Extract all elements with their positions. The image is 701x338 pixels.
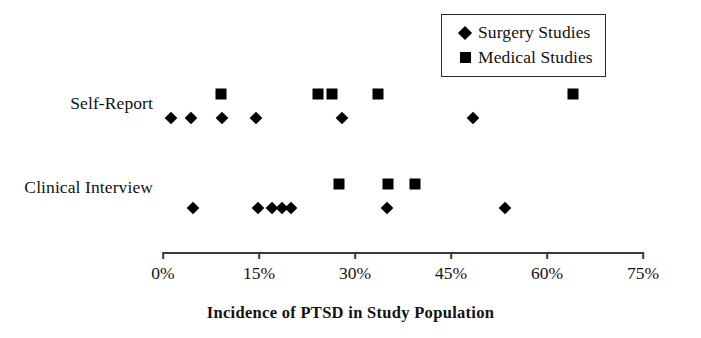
x-axis-tick	[162, 252, 164, 259]
x-axis-tick-label: 60%	[531, 263, 563, 284]
data-point	[468, 114, 477, 123]
diamond-marker-icon	[187, 202, 200, 215]
square-marker-icon	[452, 52, 478, 63]
diamond-marker-icon	[336, 112, 349, 125]
legend-entry-surgery-studies: Surgery Studies	[452, 20, 593, 45]
square-marker-icon	[334, 179, 345, 190]
x-axis-tick	[258, 252, 260, 259]
ptsd-incidence-chart: Surgery Studies Medical Studies Self-Rep…	[0, 0, 701, 338]
category-label-self-report: Self-Report	[0, 93, 153, 114]
x-axis-tick	[450, 252, 452, 259]
data-point	[287, 204, 296, 213]
data-point	[187, 114, 196, 123]
square-marker-icon	[326, 89, 337, 100]
data-point	[267, 204, 276, 213]
diamond-marker-icon	[285, 202, 298, 215]
x-axis-line	[163, 252, 643, 254]
x-axis-tick	[546, 252, 548, 259]
legend-entry-medical-studies: Medical Studies	[452, 45, 593, 70]
data-point	[383, 179, 394, 190]
square-marker-icon	[312, 89, 323, 100]
diamond-marker-icon	[249, 112, 262, 125]
data-point	[338, 114, 347, 123]
diamond-marker-icon	[466, 112, 479, 125]
data-point	[334, 179, 345, 190]
category-label-clinical-interview: Clinical Interview	[0, 177, 153, 198]
data-point	[189, 204, 198, 213]
data-point	[410, 179, 421, 190]
diamond-marker-icon	[452, 28, 478, 38]
x-axis-tick-label: 30%	[339, 263, 371, 284]
diamond-marker-icon	[265, 202, 278, 215]
legend-label-medical-studies: Medical Studies	[478, 49, 593, 67]
data-point	[215, 89, 226, 100]
x-axis-tick	[642, 252, 644, 259]
x-axis-tick-label: 15%	[243, 263, 275, 284]
x-axis-title: Incidence of PTSD in Study Population	[0, 303, 701, 323]
square-marker-icon	[215, 89, 226, 100]
legend-label-surgery-studies: Surgery Studies	[478, 24, 591, 42]
x-axis: 0%15%30%45%60%75%	[163, 252, 643, 253]
x-axis-tick	[354, 252, 356, 259]
data-point	[373, 89, 384, 100]
x-axis-tick-label: 0%	[151, 263, 174, 284]
data-point	[567, 89, 578, 100]
data-point	[251, 114, 260, 123]
x-axis-tick-label: 75%	[627, 263, 659, 284]
data-point	[326, 89, 337, 100]
diamond-marker-icon	[216, 112, 229, 125]
square-marker-icon	[373, 89, 384, 100]
diamond-marker-icon	[185, 112, 198, 125]
diamond-marker-icon	[498, 202, 511, 215]
data-point	[253, 204, 262, 213]
data-point	[500, 204, 509, 213]
data-point	[167, 114, 176, 123]
x-axis-tick-label: 45%	[435, 263, 467, 284]
square-marker-icon	[410, 179, 421, 190]
diamond-marker-icon	[381, 202, 394, 215]
data-point	[278, 204, 287, 213]
data-point	[383, 204, 392, 213]
data-point	[312, 89, 323, 100]
diamond-marker-icon	[251, 202, 264, 215]
square-marker-icon	[567, 89, 578, 100]
data-point	[217, 114, 226, 123]
diamond-marker-icon	[165, 112, 178, 125]
chart-legend: Surgery Studies Medical Studies	[441, 14, 606, 77]
square-marker-icon	[383, 179, 394, 190]
diamond-marker-icon	[276, 202, 289, 215]
